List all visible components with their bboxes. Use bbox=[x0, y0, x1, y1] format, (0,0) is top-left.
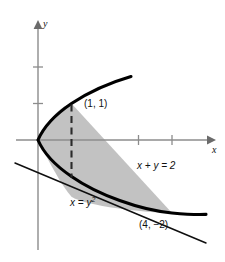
shaded-region bbox=[38, 104, 172, 214]
parabola-equation-label: x = y2 bbox=[70, 196, 95, 208]
y-axis-arrowhead bbox=[34, 20, 43, 29]
figure-container: y x (1, 1) x + y = 2 x = y2 (4, −2) bbox=[0, 0, 225, 262]
plot-canvas bbox=[0, 0, 225, 262]
parabola-equation-base: x = y bbox=[70, 197, 91, 208]
point-label-lower: (4, −2) bbox=[139, 220, 168, 230]
point-label-upper: (1, 1) bbox=[84, 99, 107, 109]
line-equation-label: x + y = 2 bbox=[137, 161, 175, 171]
y-axis-label: y bbox=[43, 19, 47, 29]
parabola-equation-exponent: 2 bbox=[91, 196, 95, 203]
x-axis-label: x bbox=[212, 145, 216, 155]
